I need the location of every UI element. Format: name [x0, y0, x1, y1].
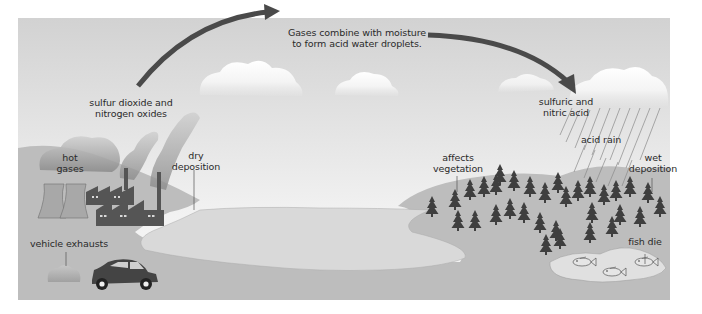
- acid-rain-diagram: Gases combine with moisture to form acid…: [0, 0, 702, 314]
- label-vehicle-exhausts: vehicle exhausts: [26, 238, 112, 249]
- label-sulfuric-nitric-acid: sulfuric and nitric acid: [534, 96, 598, 118]
- arrow-left-head: [264, 4, 280, 20]
- label-dry-deposition: dry deposition: [168, 150, 224, 172]
- label-wet-deposition: wet deposition: [624, 152, 682, 174]
- label-sulfur-dioxide: sulfur dioxide and nitrogen oxides: [86, 97, 176, 119]
- caption-gases-combine: Gases combine with moisture to form acid…: [282, 27, 432, 49]
- label-hot-gases: hot gases: [52, 152, 88, 174]
- label-acid-rain: acid rain: [576, 134, 626, 145]
- label-affects-vegetation: affects vegetation: [430, 152, 486, 174]
- label-fish-die: fish die: [622, 236, 668, 247]
